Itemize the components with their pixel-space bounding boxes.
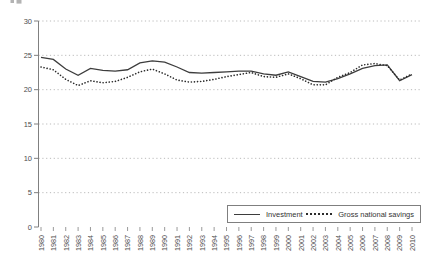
legend-label-gross-national-savings: Gross national savings <box>338 210 414 219</box>
x-tick-label-1995: 1995 <box>222 235 231 251</box>
x-tick-label-2008: 2008 <box>383 235 392 251</box>
x-tick-label-1980: 1980 <box>37 235 46 251</box>
x-tick-label-2005: 2005 <box>346 235 355 251</box>
x-tick-label-1985: 1985 <box>99 235 108 251</box>
x-tick-label-1987: 1987 <box>123 235 132 251</box>
y-tick-label-15: 15 <box>24 120 32 129</box>
legend-item-investment: Investment <box>234 210 303 219</box>
series-line-gross-national-savings <box>41 64 412 86</box>
y-tick-label-30: 30 <box>24 17 32 26</box>
y-tick-label-20: 20 <box>24 85 32 94</box>
x-tick-label-1999: 1999 <box>272 235 281 251</box>
investment-solid-line-swatch <box>234 214 260 215</box>
legend-item-gross-national-savings: Gross national savings <box>306 210 414 219</box>
x-tick-label-1991: 1991 <box>173 235 182 251</box>
x-tick-label-1986: 1986 <box>111 235 120 251</box>
x-tick-label-2003: 2003 <box>321 235 330 251</box>
x-tick-label-1990: 1990 <box>160 235 169 251</box>
y-tick-label-10: 10 <box>24 154 32 163</box>
x-tick-label-1981: 1981 <box>49 235 58 251</box>
x-tick-label-2000: 2000 <box>284 235 293 251</box>
x-tick-label-2004: 2004 <box>334 235 343 251</box>
x-tick-label-1984: 1984 <box>86 235 95 251</box>
x-tick-label-1982: 1982 <box>62 235 71 251</box>
savings-investment-line-chart: 0510152025301980198119821983198419851986… <box>0 0 433 273</box>
x-tick-label-2009: 2009 <box>395 235 404 251</box>
x-tick-label-1988: 1988 <box>136 235 145 251</box>
x-tick-label-1993: 1993 <box>198 235 207 251</box>
y-tick-label-25: 25 <box>24 51 32 60</box>
x-tick-label-1992: 1992 <box>185 235 194 251</box>
plot-area: 0510152025301980198119821983198419851986… <box>0 0 433 273</box>
x-tick-label-1989: 1989 <box>148 235 157 251</box>
x-tick-label-2010: 2010 <box>408 235 417 251</box>
cropped-text-artifact <box>11 0 22 4</box>
legend-label-investment: Investment <box>266 210 303 219</box>
x-tick-label-1997: 1997 <box>247 235 256 251</box>
x-tick-label-1996: 1996 <box>235 235 244 251</box>
x-tick-label-1998: 1998 <box>259 235 268 251</box>
savings-dotted-line-swatch <box>306 213 332 215</box>
legend: Investment Gross national savings <box>227 205 421 223</box>
y-tick-label-5: 5 <box>28 188 32 197</box>
x-tick-label-1983: 1983 <box>74 235 83 251</box>
y-tick-label-0: 0 <box>28 223 32 232</box>
x-tick-label-2007: 2007 <box>371 235 380 251</box>
series-line-investment <box>41 57 412 82</box>
x-tick-label-2002: 2002 <box>309 235 318 251</box>
x-tick-label-1994: 1994 <box>210 235 219 251</box>
x-tick-label-2001: 2001 <box>297 235 306 251</box>
x-tick-label-2006: 2006 <box>358 235 367 251</box>
